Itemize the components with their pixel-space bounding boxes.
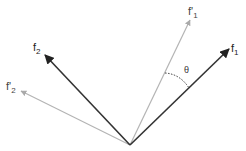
- label-f1-prime: f'1: [188, 5, 198, 20]
- vector-f2-prime: [21, 91, 130, 145]
- vector-f1-prime: [130, 20, 190, 145]
- label-f2: f2: [33, 41, 41, 56]
- vector-f2: [45, 55, 130, 145]
- vector-f1: [130, 49, 229, 145]
- label-f1: f1: [231, 42, 239, 57]
- label-f2-prime: f'2: [6, 80, 16, 95]
- vector-rotation-diagram: f1 f2 f'1 f'2 θ: [0, 0, 246, 151]
- label-theta: θ: [184, 65, 189, 75]
- angle-arc: [165, 73, 189, 88]
